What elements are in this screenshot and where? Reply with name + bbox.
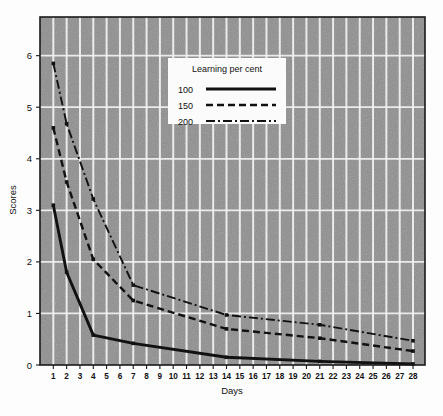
- data-point-100-day-7: [131, 342, 135, 346]
- x-tick-label: 22: [329, 372, 339, 381]
- x-tick-label: 18: [275, 372, 285, 381]
- x-tick-label: 6: [118, 372, 123, 381]
- legend-title: Learning per cent: [192, 64, 263, 74]
- x-tick-label: 15: [235, 372, 245, 381]
- x-tick-label: 23: [342, 372, 352, 381]
- y-axis-title: Scores: [7, 185, 18, 215]
- x-tick-label: 10: [169, 372, 179, 381]
- chart-canvas: 0123456 12345678910111213141516171819202…: [0, 0, 443, 416]
- x-tick-label: 27: [395, 372, 405, 381]
- data-point-150-day-14: [225, 327, 229, 331]
- line-chart-svg: 0123456 12345678910111213141516171819202…: [0, 0, 443, 416]
- data-point-150-day-21: [318, 336, 322, 340]
- x-tick-label: 26: [382, 372, 392, 381]
- y-tick-label: 5: [27, 102, 32, 113]
- data-point-100-day-1: [52, 203, 56, 207]
- data-point-200-day-28: [411, 339, 415, 343]
- data-point-200-day-14: [225, 313, 229, 317]
- x-tick-label: 5: [104, 372, 109, 381]
- x-tick-label: 21: [315, 372, 325, 381]
- data-point-150-day-28: [411, 349, 415, 353]
- x-tick-label: 25: [368, 372, 378, 381]
- data-point-150-day-2: [65, 180, 69, 184]
- data-point-200-day-21: [318, 323, 322, 327]
- y-tick-label: 1: [27, 308, 32, 319]
- x-tick-label: 3: [78, 372, 83, 381]
- y-tick-label: 6: [27, 50, 32, 61]
- x-tick-label: 4: [91, 372, 96, 381]
- x-tick-label: 9: [158, 372, 163, 381]
- x-tick-label: 20: [302, 372, 312, 381]
- x-tick-label: 14: [222, 372, 232, 381]
- x-axis-title: Days: [221, 385, 243, 396]
- data-point-200-day-1: [52, 62, 56, 66]
- data-point-200-day-7: [131, 283, 135, 287]
- data-point-150-day-7: [131, 299, 135, 303]
- x-tick-label: 8: [144, 372, 149, 381]
- data-point-150-day-4: [91, 258, 95, 262]
- y-tick-label: 0: [27, 360, 32, 371]
- x-tick-label: 28: [408, 372, 418, 381]
- data-point-150-day-1: [52, 126, 56, 130]
- x-tick-label: 7: [131, 372, 136, 381]
- y-tick-label: 4: [27, 153, 32, 164]
- x-tick-label: 19: [289, 372, 299, 381]
- x-tick-label: 1: [51, 372, 56, 381]
- legend-label-100: 100: [178, 85, 193, 95]
- data-point-100-day-2: [65, 270, 69, 274]
- x-axis-tick-labels: 1234567891011121314151617181920212223242…: [51, 372, 418, 381]
- y-tick-label: 2: [27, 256, 32, 267]
- x-tick-label: 24: [355, 372, 365, 381]
- x-tick-label: 17: [262, 372, 272, 381]
- legend-label-200: 200: [178, 117, 193, 127]
- x-tick-label: 2: [64, 372, 69, 381]
- data-point-100-day-21: [318, 360, 322, 364]
- y-tick-label: 3: [27, 205, 32, 216]
- x-tick-label: 12: [195, 372, 205, 381]
- chart-legend: Learning per cent100150200: [168, 58, 286, 127]
- legend-label-150: 150: [178, 101, 193, 111]
- chart-figure: 0123456 12345678910111213141516171819202…: [0, 0, 443, 416]
- x-tick-label: 13: [209, 372, 219, 381]
- x-tick-label: 16: [249, 372, 259, 381]
- data-point-200-day-2: [65, 122, 69, 126]
- data-point-100-day-4: [91, 333, 95, 337]
- x-tick-label: 11: [182, 372, 191, 381]
- data-point-100-day-14: [225, 355, 229, 359]
- data-point-200-day-4: [91, 197, 95, 201]
